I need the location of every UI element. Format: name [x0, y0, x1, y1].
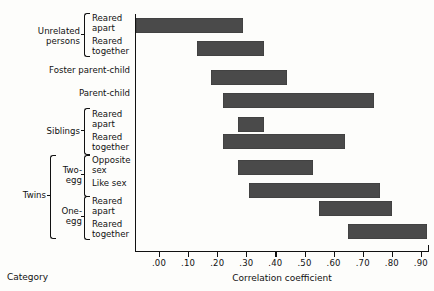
bar-row-6 [238, 160, 314, 175]
x-tick-label-60: .60 [327, 258, 341, 268]
brace-siblings [84, 108, 90, 155]
brace-tick-one-egg [81, 216, 84, 217]
x-tick-90 [421, 252, 422, 257]
x-tick-label-80: .80 [385, 258, 399, 268]
x-tick-label-10: .10 [181, 258, 195, 268]
bar-row-2 [211, 70, 287, 85]
row-label-one-egg-together: Reared together [92, 220, 129, 239]
x-tick-30 [246, 252, 247, 257]
group-label-one-egg: One- egg [56, 207, 82, 226]
row-label-one-egg-apart: Reared apart [92, 197, 122, 216]
x-tick-00 [159, 252, 160, 257]
x-axis-title: Correlation coefficient [135, 273, 429, 283]
brace-tick-siblings [81, 130, 84, 131]
row-label-siblings-together: Reared together [92, 133, 129, 152]
category-axis-title: Category [7, 272, 48, 282]
group-label-siblings: Siblings [30, 127, 80, 137]
x-axis-right-cap [428, 245, 429, 252]
x-tick-label-30: .30 [239, 258, 253, 268]
x-tick-60 [334, 252, 335, 257]
bar-row-1 [197, 41, 264, 56]
x-axis-left-cap [135, 245, 136, 252]
brace-unrelated-persons [84, 13, 90, 57]
row-label-parent-child: Parent-child [36, 89, 130, 99]
brace-two-egg [84, 155, 90, 197]
x-tick-10 [188, 252, 189, 257]
bar-row-9 [348, 224, 427, 239]
group-label-twins: Twins [8, 191, 46, 201]
brace-tick-twins [47, 195, 50, 196]
x-tick-label-00: .00 [152, 258, 166, 268]
x-tick-label-50: .50 [297, 258, 311, 268]
x-tick-40 [275, 252, 276, 257]
bar-row-7 [249, 183, 380, 198]
y-axis-line [135, 14, 136, 252]
x-tick-label-70: .70 [356, 258, 370, 268]
group-label-two-egg: Two- egg [56, 166, 82, 185]
row-label-two-egg-opposite-sex: Opposite sex [92, 156, 130, 175]
brace-tick-two-egg [81, 174, 84, 175]
brace-one-egg [84, 196, 90, 240]
x-tick-20 [217, 252, 218, 257]
row-label-unrelated-apart: Reared apart [92, 14, 122, 33]
x-tick-label-40: .40 [268, 258, 282, 268]
group-label-unrelated-persons: Unrelated persons [16, 27, 80, 46]
x-axis-line [135, 251, 429, 252]
brace-tick-unrelated-persons [81, 34, 84, 35]
row-label-foster-parent-child: Foster parent-child [36, 66, 130, 76]
bar-row-5 [223, 134, 345, 149]
row-label-siblings-apart: Reared apart [92, 110, 122, 129]
x-tick-label-20: .20 [210, 258, 224, 268]
correlation-coefficient-chart: Unrelated persons Reared apart Reared to… [0, 0, 434, 291]
x-tick-50 [305, 252, 306, 257]
row-label-unrelated-together: Reared together [92, 37, 129, 56]
bar-row-4 [238, 117, 264, 132]
x-tick-80 [392, 252, 393, 257]
bar-row-3 [223, 93, 374, 108]
bar-row-0 [136, 18, 244, 33]
bar-row-8 [319, 201, 392, 216]
row-label-two-egg-like-sex: Like sex [92, 179, 127, 189]
x-tick-70 [363, 252, 364, 257]
x-tick-label-90: .90 [414, 258, 428, 268]
